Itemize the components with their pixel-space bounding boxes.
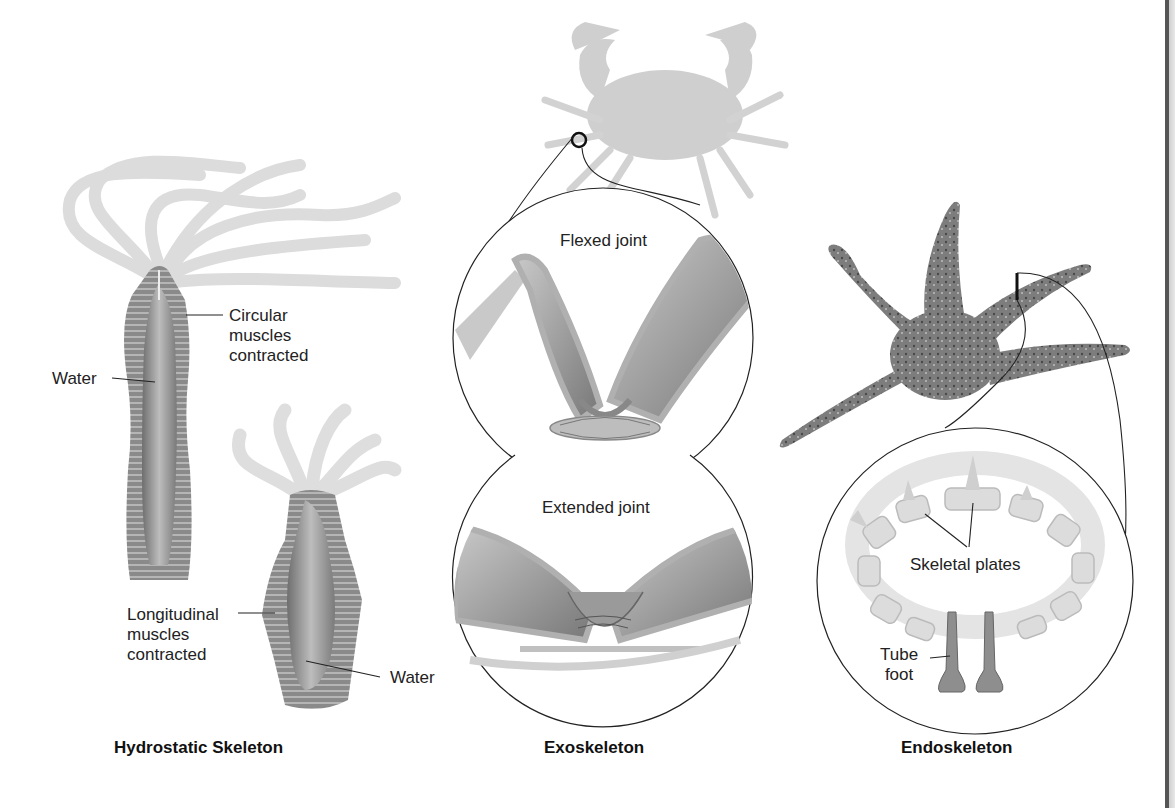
page-edge-border: [1165, 0, 1175, 808]
extended-joint-magnified-view: [452, 455, 755, 727]
title-endoskeleton: Endoskeleton: [901, 738, 1012, 758]
endoskeleton-magnified-view: [817, 428, 1133, 734]
label-flexed-joint: Flexed joint: [560, 231, 647, 251]
label-skeletal-plates: Skeletal plates: [910, 555, 1021, 575]
label-water-top: Water: [52, 369, 97, 389]
hydra-elongated-illustration: [69, 162, 395, 580]
title-hydrostatic-skeleton: Hydrostatic Skeleton: [114, 738, 283, 758]
hydra-shortened-illustration: [238, 410, 395, 709]
label-circular-muscles: Circular muscles contracted: [229, 306, 308, 366]
label-water-bottom: Water: [390, 668, 435, 688]
title-exoskeleton: Exoskeleton: [544, 738, 644, 758]
label-tube-foot: Tube foot: [880, 645, 918, 685]
crab-illustration: [545, 22, 785, 215]
label-extended-joint: Extended joint: [542, 498, 650, 518]
label-longitudinal-muscles: Longitudinal muscles contracted: [127, 605, 219, 665]
sea-star-illustration: [780, 202, 1130, 448]
diagram-artwork: [0, 0, 1175, 808]
